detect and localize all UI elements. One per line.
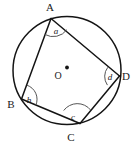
vertex-label-b: B xyxy=(7,98,14,110)
angle-label-b: b xyxy=(27,95,32,105)
vertex-label-a: A xyxy=(46,1,54,13)
chord-c-d xyxy=(80,76,120,124)
vertex-label-c: C xyxy=(67,131,74,143)
angle-label-a: a xyxy=(54,26,59,36)
angle-arc-c xyxy=(64,104,91,111)
center-label-o: O xyxy=(54,70,61,81)
chord-d-a xyxy=(51,19,120,77)
center-point-dot xyxy=(65,66,69,70)
figure-canvas: O A B C D a b c d xyxy=(0,0,140,144)
angle-label-c: c xyxy=(71,112,75,122)
vertex-label-d: D xyxy=(122,70,130,82)
chord-a-b xyxy=(22,19,52,100)
angle-label-d: d xyxy=(108,72,113,82)
geometry-figure: O A B C D a b c d xyxy=(0,0,140,144)
